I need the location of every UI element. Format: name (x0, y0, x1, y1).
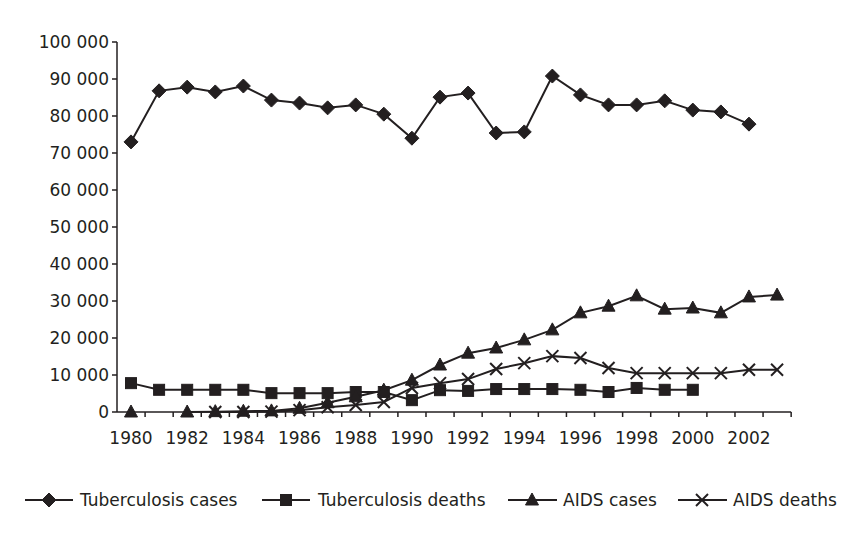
triangle-marker-icon (630, 289, 643, 301)
x-axis: 1980198219841986198819901992199419961998… (109, 412, 791, 448)
square-marker-icon (281, 495, 292, 506)
x-tick-label: 1980 (109, 428, 152, 448)
x-tick-label: 1994 (503, 428, 546, 448)
square-marker-icon (154, 384, 165, 395)
y-tick-label: 70 000 (50, 143, 109, 163)
square-marker-icon (547, 384, 558, 395)
series-aids-cases (125, 288, 784, 417)
x-tick-label: 1996 (559, 428, 602, 448)
diamond-marker-icon (321, 101, 335, 115)
legend-label: Tuberculosis deaths (317, 490, 486, 510)
x-tick-label: 2002 (727, 428, 770, 448)
diamond-marker-icon (686, 103, 700, 117)
x-tick-label: 2000 (671, 428, 714, 448)
legend-item-aids-cases: AIDS cases (508, 490, 657, 510)
x-tick-label: 1986 (278, 428, 321, 448)
square-marker-icon (491, 384, 502, 395)
y-tick-label: 90 000 (50, 69, 109, 89)
square-marker-icon (575, 384, 586, 395)
legend-item-tuberculosis-cases: Tuberculosis cases (25, 490, 238, 510)
triangle-marker-icon (125, 405, 138, 417)
diamond-marker-icon (208, 85, 222, 99)
x-tick-label: 1998 (615, 428, 658, 448)
legend-label: AIDS cases (563, 490, 657, 510)
y-tick-label: 0 (98, 402, 109, 422)
square-marker-icon (519, 384, 530, 395)
diamond-marker-icon (742, 117, 756, 131)
y-tick-label: 50 000 (50, 217, 109, 237)
legend-item-tuberculosis-deaths: Tuberculosis deaths (262, 490, 486, 510)
square-marker-icon (631, 382, 642, 393)
square-marker-icon (463, 385, 474, 396)
legend: Tuberculosis cases Tuberculosis deaths A… (25, 490, 837, 510)
x-tick-label: 1990 (390, 428, 433, 448)
y-tick-label: 40 000 (50, 254, 109, 274)
diamond-marker-icon (630, 98, 644, 112)
x-tick-label: 1988 (334, 428, 377, 448)
square-marker-icon (659, 384, 670, 395)
x-tick-label: 1992 (446, 428, 489, 448)
square-marker-icon (126, 378, 137, 389)
square-marker-icon (406, 395, 417, 406)
diamond-marker-icon (349, 98, 363, 112)
y-tick-label: 100 000 (39, 32, 109, 52)
diamond-marker-icon (293, 96, 307, 110)
diamond-marker-icon (42, 493, 56, 507)
legend-item-aids-deaths: AIDS deaths (678, 490, 837, 510)
square-marker-icon (238, 384, 249, 395)
square-marker-icon (266, 388, 277, 399)
y-tick-label: 60 000 (50, 180, 109, 200)
legend-label: Tuberculosis cases (79, 490, 238, 510)
line-chart: 010 00020 00030 00040 00050 00060 00070 … (0, 0, 846, 535)
diamond-marker-icon (180, 80, 194, 94)
diamond-marker-icon (433, 90, 447, 104)
diamond-marker-icon (236, 79, 250, 93)
x-tick-label: 1982 (166, 428, 209, 448)
square-marker-icon (294, 388, 305, 399)
series-tuberculosis-cases (124, 69, 756, 149)
triangle-marker-icon (771, 288, 784, 300)
diamond-marker-icon (545, 69, 559, 83)
square-marker-icon (210, 384, 221, 395)
square-marker-icon (281, 495, 292, 506)
triangle-marker-icon (686, 301, 699, 313)
square-marker-icon (687, 384, 698, 395)
square-marker-icon (182, 384, 193, 395)
triangle-marker-icon (546, 323, 559, 335)
y-tick-label: 20 000 (50, 328, 109, 348)
series-line (131, 76, 749, 142)
diamond-marker-icon (517, 125, 531, 139)
diamond-marker-icon (152, 84, 166, 98)
square-marker-icon (603, 387, 614, 398)
x-tick-label: 1984 (222, 428, 265, 448)
y-tick-label: 80 000 (50, 106, 109, 126)
diamond-marker-icon (264, 93, 278, 107)
diamond-marker-icon (658, 94, 672, 108)
y-tick-label: 30 000 (50, 291, 109, 311)
diamond-marker-icon (42, 493, 56, 507)
y-tick-label: 10 000 (50, 365, 109, 385)
diamond-marker-icon (714, 105, 728, 119)
diamond-marker-icon (489, 126, 503, 140)
diamond-marker-icon (573, 88, 587, 102)
diamond-marker-icon (461, 86, 475, 100)
legend-label: AIDS deaths (733, 490, 837, 510)
y-axis: 010 00020 00030 00040 00050 00060 00070 … (39, 32, 117, 422)
diamond-marker-icon (124, 135, 138, 149)
diamond-marker-icon (602, 98, 616, 112)
series-group (124, 69, 784, 418)
